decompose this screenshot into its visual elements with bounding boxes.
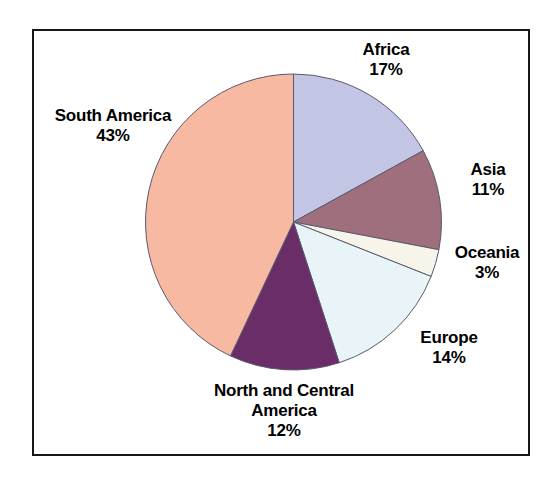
pie-label-south-america-value: 43%	[22, 126, 204, 146]
pie-label-south-america-name: South America	[22, 106, 204, 126]
pie-label-north-and-central-america-name-line1: North and Central	[178, 381, 390, 401]
pie-label-south-america: South America 43%	[22, 106, 204, 146]
pie-label-oceania: Oceania 3%	[432, 243, 542, 283]
pie-label-asia: Asia 11%	[442, 160, 534, 200]
pie-label-europe-name: Europe	[394, 328, 504, 348]
pie-label-africa: Africa 17%	[324, 40, 448, 80]
pie-label-africa-name: Africa	[324, 40, 448, 60]
pie-label-oceania-value: 3%	[432, 263, 542, 283]
pie-label-europe-value: 14%	[394, 348, 504, 368]
pie-label-north-and-central-america: North and Central America 12%	[178, 381, 390, 441]
pie-label-north-and-central-america-name-line2: America	[178, 401, 390, 421]
pie-label-asia-name: Asia	[442, 160, 534, 180]
pie-label-africa-value: 17%	[324, 60, 448, 80]
pie-label-europe: Europe 14%	[394, 328, 504, 368]
pie-label-asia-value: 11%	[442, 180, 534, 200]
pie-label-north-and-central-america-value: 12%	[178, 421, 390, 441]
pie-label-oceania-name: Oceania	[432, 243, 542, 263]
